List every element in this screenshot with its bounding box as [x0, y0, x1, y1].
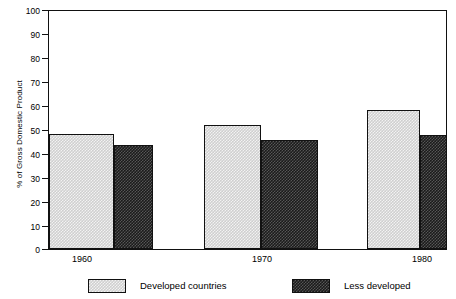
- y-tick-label-20: 20: [8, 199, 40, 208]
- bar-1960-less-developed: [114, 145, 153, 249]
- y-tick-label-50: 50: [8, 127, 40, 136]
- y-tick-label-90: 90: [8, 31, 40, 40]
- legend-label-developed-countries: Developed countries: [140, 280, 227, 292]
- legend-swatch-developed-countries: [88, 279, 126, 293]
- bar-1980-developed: [367, 110, 420, 249]
- bar-1970-less-developed: [261, 140, 318, 249]
- bar-1980-less-developed: [420, 135, 447, 249]
- x-tick-label-1970: 1970: [222, 255, 302, 264]
- x-tick-label-1960: 1960: [42, 255, 122, 264]
- legend-label-less-developed: Less developed: [344, 280, 411, 292]
- y-tick-label-0: 0: [8, 246, 40, 255]
- bar-1960-developed: [49, 134, 114, 249]
- y-tick-label-30: 30: [8, 175, 40, 184]
- y-tick-label-10: 10: [8, 223, 40, 232]
- legend-swatch-less-developed: [292, 279, 330, 293]
- plot-area: [48, 10, 447, 250]
- bar-chart: % of Gross Domestic Product 100 90 80 70…: [0, 0, 456, 299]
- bar-1970-developed: [204, 125, 261, 249]
- y-tick-label-60: 60: [8, 103, 40, 112]
- y-tick-label-80: 80: [8, 55, 40, 64]
- x-tick-label-1980: 1980: [382, 255, 456, 264]
- y-tick-label-40: 40: [8, 151, 40, 160]
- y-tick-label-100: 100: [8, 7, 40, 16]
- y-tick-label-70: 70: [8, 79, 40, 88]
